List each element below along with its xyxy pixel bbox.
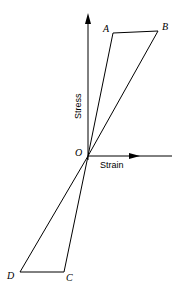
strain-axis-label: Strain <box>100 161 124 170</box>
stress-axis-label: Stress <box>74 93 83 119</box>
point-label-c: C <box>66 273 73 283</box>
point-label-a: A <box>103 24 109 34</box>
point-label-d: D <box>7 271 14 281</box>
lower-hysteresis-loop <box>20 156 88 272</box>
stress-axis-up-arrow-icon <box>85 13 91 24</box>
point-label-o: O <box>75 148 82 158</box>
figure-canvas <box>0 0 177 295</box>
stress-strain-figure: A B O C D Stress Strain <box>0 0 177 295</box>
strain-axis-right-arrow-icon <box>129 153 140 159</box>
upper-hysteresis-loop <box>88 31 158 156</box>
point-label-b: B <box>162 22 168 32</box>
